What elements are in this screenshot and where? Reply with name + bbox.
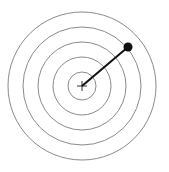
endpoint-dot: [124, 43, 133, 52]
target-diagram: [0, 0, 169, 172]
